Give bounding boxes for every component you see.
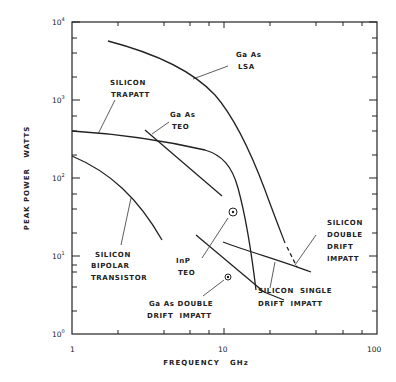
svg-text:DRIFT IMPATT: DRIFT IMPATT [258,300,323,308]
svg-text:100: 100 [52,328,65,339]
svg-text:1: 1 [70,345,75,354]
chart-canvas: 104 103 102 101 100 1 10 100 FREQUENCY G… [0,0,396,382]
svg-text:104: 104 [52,16,65,27]
svg-text:100: 100 [367,345,382,354]
leader-lines [98,66,316,296]
curve-gaas-lsa [108,41,285,243]
curve-si-dd-impatt-tail [223,242,311,272]
y-ticks-left [72,22,80,311]
curve-si-dd-impatt [196,235,264,292]
svg-text:102: 102 [52,172,65,183]
y-ticks-right [369,22,377,311]
svg-text:InP: InP [176,257,191,265]
svg-text:Ga As DOUBLE: Ga As DOUBLE [149,300,213,308]
svg-text:Ga As: Ga As [170,111,196,119]
svg-text:TEO: TEO [178,269,195,277]
svg-text:LSA: LSA [238,63,255,71]
x-axis-title: FREQUENCY GHz [163,359,248,367]
svg-text:DOUBLE: DOUBLE [327,231,363,239]
svg-text:DRIFT: DRIFT [327,243,353,251]
label-si-trapatt: SILICON TRAPATT [110,79,150,99]
label-gaas-teo: Ga As TEO [170,111,196,131]
x-ticks-top [118,22,362,28]
y-tick-labels: 104 103 102 101 100 [52,16,65,339]
svg-text:103: 103 [52,94,65,105]
svg-text:IMPATT: IMPATT [327,255,359,263]
svg-text:BIPOLAR: BIPOLAR [91,262,130,270]
svg-text:TRANSISTOR: TRANSISTOR [91,274,147,282]
label-gaas-dd-impatt: Ga As DOUBLE DRIFT IMPATT [147,300,213,320]
svg-text:SILICON: SILICON [327,219,363,227]
curve-gaas-teo [145,130,222,196]
x-ticks-bottom [118,328,362,334]
svg-text:TRAPATT: TRAPATT [111,91,150,99]
y-axis-title: PEAK POWER WATTS [23,126,31,231]
svg-text:SILICON: SILICON [110,79,146,87]
svg-text:SILICON: SILICON [95,251,131,259]
svg-text:10: 10 [218,345,228,354]
curve-si-bipolar [72,156,162,240]
label-si-bipolar: SILICON BIPOLAR TRANSISTOR [91,251,147,282]
label-inp-teo: InP TEO [176,257,195,277]
svg-text:101: 101 [52,250,65,261]
svg-text:SILICON SINGLE: SILICON SINGLE [258,287,332,295]
point-inp-teo [229,208,237,216]
label-si-sd-impatt: SILICON SINGLE DRIFT IMPATT [258,287,332,308]
svg-text:DRIFT IMPATT: DRIFT IMPATT [147,312,212,320]
label-si-dd-impatt: SILICON DOUBLE DRIFT IMPATT [327,219,363,263]
svg-text:Ga As: Ga As [236,51,262,59]
label-gaas-lsa: Ga As LSA [236,51,262,71]
x-tick-labels: 1 10 100 [70,345,382,354]
svg-text:TEO: TEO [172,123,189,131]
point-gaas-dd-impatt [225,274,231,280]
